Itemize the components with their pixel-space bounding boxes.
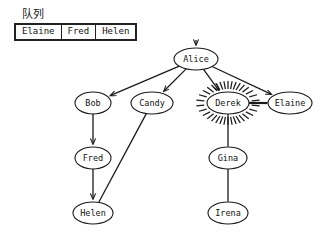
edge-alice-to-candy <box>164 69 186 91</box>
node-helen[interactable]: Helen <box>73 202 113 224</box>
sparkle-ray <box>249 109 257 111</box>
node-label-gina: Gina <box>218 153 238 163</box>
node-elaine[interactable]: Elaine <box>268 92 312 114</box>
sparkle-ray <box>242 87 248 92</box>
node-label-alice: Alice <box>183 54 209 64</box>
sparkle-ray <box>246 91 253 95</box>
tree-graph: AliceBobCandyDerekElaineFredGinaHelenIre… <box>0 0 329 241</box>
sparkle-ray <box>252 100 260 101</box>
node-label-derek: Derek <box>215 98 241 108</box>
diagram-canvas: 队列 Elaine Fred Helen AliceBobCandyDerekE… <box>0 0 329 241</box>
sparkle-ray <box>199 95 207 97</box>
node-gina[interactable]: Gina <box>209 147 247 169</box>
sparkle-ray <box>236 116 240 123</box>
sparkle-ray <box>212 115 217 121</box>
node-label-bob: Bob <box>85 98 100 108</box>
sparkle-ray <box>246 112 253 116</box>
node-label-irena: Irena <box>215 208 241 218</box>
node-label-fred: Fred <box>83 153 103 163</box>
sparkle-ray <box>196 100 204 101</box>
sparkle-ray <box>199 109 207 111</box>
node-irena[interactable]: Irena <box>208 202 248 224</box>
node-alice[interactable]: Alice <box>174 48 218 70</box>
node-layer: AliceBobCandyDerekElaineFredGinaHelenIre… <box>73 48 312 224</box>
sparkle-ray <box>203 91 210 95</box>
node-label-helen: Helen <box>80 208 106 218</box>
sparkle-ray <box>239 115 244 121</box>
sparkle-ray <box>242 114 248 119</box>
node-label-elaine: Elaine <box>275 98 306 108</box>
sparkle-ray <box>196 105 204 106</box>
node-candy[interactable]: Candy <box>131 92 173 114</box>
edge-alice-to-bob <box>111 66 180 95</box>
sparkle-ray <box>207 87 213 92</box>
sparkle-ray <box>231 117 232 125</box>
sparkle-ray <box>224 117 225 125</box>
node-derek[interactable]: Derek <box>207 92 249 114</box>
sparkle-ray <box>207 114 213 119</box>
node-label-candy: Candy <box>139 98 165 108</box>
edge-alice-to-derek <box>204 69 219 90</box>
sparkle-ray <box>203 112 210 116</box>
sparkle-ray <box>220 82 223 89</box>
sparkle-ray <box>236 83 240 90</box>
sparkle-ray <box>231 81 232 89</box>
sparkle-ray <box>233 82 236 89</box>
edge-alice-to-elaine <box>212 67 271 95</box>
sparkle-ray <box>220 117 223 124</box>
sparkle-ray <box>249 95 257 97</box>
node-bob[interactable]: Bob <box>75 92 111 114</box>
sparkle-ray <box>224 81 225 89</box>
sparkle-ray <box>252 105 260 106</box>
sparkle-ray <box>239 85 244 91</box>
sparkle-ray <box>233 117 236 124</box>
sparkle-ray <box>216 116 220 123</box>
node-fred[interactable]: Fred <box>75 147 111 169</box>
